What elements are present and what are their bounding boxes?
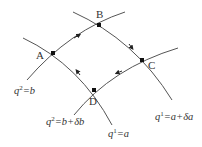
curve-q2-b: [27, 12, 125, 80]
label-q2-b: q2=b: [14, 85, 35, 97]
curves-svg: [0, 0, 202, 147]
label-q1-a-da: q1=a+δa: [155, 111, 193, 123]
point-c: [140, 58, 144, 62]
point-b: [97, 23, 101, 27]
label-q2-b-db: q2=b+δb: [46, 116, 84, 128]
arrow-b-to-c-icon: [129, 44, 132, 48]
label-point-a: A: [36, 50, 44, 61]
point-d: [92, 88, 96, 92]
label-point-b: B: [96, 9, 103, 20]
arrow-d-to-a-icon: [77, 71, 80, 75]
label-point-c: C: [148, 60, 155, 71]
arrow-c-to-d-icon: [117, 71, 122, 73]
diagram-canvas: A B C D q2=b q2=b+δb q1=a q1=a+δa: [0, 0, 202, 147]
curve-q1-a-da: [73, 12, 172, 100]
label-q1-a: q1=a: [108, 128, 129, 140]
label-point-d: D: [89, 96, 97, 107]
point-a: [51, 51, 55, 55]
